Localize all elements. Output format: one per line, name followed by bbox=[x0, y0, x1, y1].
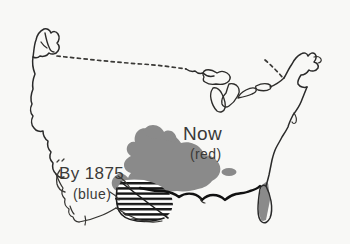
southwest-inland-mark bbox=[70, 206, 74, 214]
by1875-tick-mark-2 bbox=[62, 159, 64, 161]
st-lawrence-outline bbox=[270, 78, 284, 87]
west-coast-outline bbox=[31, 57, 64, 177]
east-coast-outline bbox=[266, 87, 307, 186]
outlier-gray-patch bbox=[222, 168, 237, 176]
lake-huron-outline bbox=[222, 84, 239, 107]
lake-erie-outline bbox=[238, 88, 256, 98]
lake-superior-outline bbox=[203, 70, 230, 85]
label-by1875-title: By 1875 bbox=[59, 164, 124, 184]
northern-border-dashed bbox=[57, 56, 186, 69]
by1875-tick-mark bbox=[57, 160, 59, 162]
northeast-coast-outline bbox=[284, 53, 318, 87]
label-now-subtitle: (red) bbox=[190, 146, 222, 162]
map-figure: Now (red) By 1875 (blue) bbox=[0, 0, 350, 244]
puget-sound-inlet bbox=[45, 33, 54, 52]
map-canvas bbox=[0, 0, 350, 244]
northern-border-dashed-east bbox=[265, 60, 283, 78]
label-by1875-subtitle: (blue) bbox=[73, 186, 111, 202]
southwest-border-outline bbox=[79, 208, 116, 222]
lake-michigan-outline bbox=[211, 88, 226, 112]
pacific-northwest-outline bbox=[33, 29, 59, 58]
puget-sound-inlet-2 bbox=[41, 42, 47, 48]
lake-ontario-outline bbox=[256, 84, 271, 91]
label-now-title: Now bbox=[183, 123, 222, 145]
